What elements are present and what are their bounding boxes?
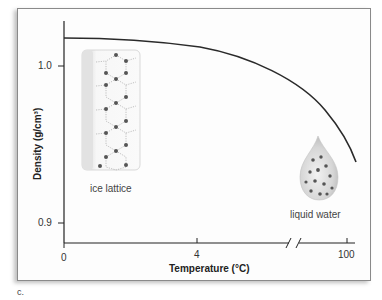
liquid-water-illustration <box>300 136 338 200</box>
figure-label: c. <box>17 287 24 297</box>
ice-lattice-caption: ice lattice <box>90 183 132 194</box>
y-axis-title: Density (g/cm³) <box>32 108 43 180</box>
ice-lattice-illustration <box>82 50 140 170</box>
x-tick-label-100: 100 <box>338 249 355 260</box>
x-axis-title: Temperature (°C) <box>169 263 250 274</box>
y-tick-label-1.0: 1.0 <box>38 60 52 71</box>
plot-area <box>0 0 382 300</box>
liquid-water-caption: liquid water <box>290 209 341 220</box>
x-tick-label-4: 4 <box>194 249 200 260</box>
y-tick-label-0.9: 0.9 <box>38 217 52 228</box>
x-tick-label-0: 0 <box>61 252 67 263</box>
